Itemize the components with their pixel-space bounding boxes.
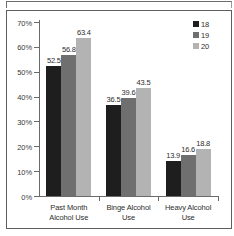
- y-tick-label: 60%: [17, 43, 32, 52]
- bar-group: 52.556.863.4: [46, 22, 91, 196]
- bar[interactable]: 36.5: [106, 105, 121, 196]
- category-label-line: Use: [99, 213, 159, 223]
- y-tick-label: 50%: [17, 68, 32, 77]
- y-tick-mark: [34, 97, 39, 98]
- legend-swatch-icon: [193, 21, 199, 27]
- bar-value-label: 43.5: [137, 78, 151, 87]
- bar[interactable]: 43.5: [136, 88, 151, 196]
- category-label-line: Binge Alcohol: [99, 203, 159, 213]
- bar-value-label: 18.8: [196, 139, 210, 148]
- category-label-line: Heavy Alcohol: [158, 203, 218, 213]
- y-tick: 60%: [34, 47, 39, 48]
- y-tick-mark: [34, 146, 39, 147]
- bar-value-label: 16.6: [181, 145, 195, 154]
- bar-value-label: 36.5: [107, 95, 121, 104]
- y-tick: 10%: [34, 171, 39, 172]
- legend-item[interactable]: 20: [193, 41, 209, 51]
- category-label-line: Past Month: [39, 203, 99, 213]
- chart-page: 0%10%20%30%40%50%60%70% 52.556.863.436.5…: [0, 0, 234, 236]
- y-tick: 30%: [34, 121, 39, 122]
- bar-value-label: 63.4: [77, 28, 91, 37]
- y-tick: 40%: [34, 97, 39, 98]
- category-label: Heavy AlcoholUse: [158, 203, 218, 222]
- y-tick: 50%: [34, 72, 39, 73]
- y-tick-mark: [34, 171, 39, 172]
- category-label: Binge AlcoholUse: [99, 203, 159, 222]
- top-band: [6, 1, 232, 8]
- y-axis-line: [39, 20, 40, 197]
- bar[interactable]: 52.5: [46, 66, 61, 197]
- legend-item[interactable]: 19: [193, 30, 209, 40]
- y-tick-label: 0%: [21, 192, 32, 201]
- y-tick-mark: [34, 47, 39, 48]
- x-axis-line: [39, 196, 219, 197]
- legend-label: 18: [201, 20, 209, 29]
- legend-swatch-icon: [193, 32, 199, 38]
- y-tick: 0%: [34, 196, 39, 197]
- y-tick: 70%: [34, 22, 39, 23]
- y-tick-mark: [34, 22, 39, 23]
- bar-group: 36.539.643.5: [106, 22, 151, 196]
- bar-value-label: 56.8: [62, 45, 76, 54]
- legend-label: 20: [201, 42, 209, 51]
- y-tick-label: 10%: [17, 167, 32, 176]
- category-label: Past MonthAlcohol Use: [39, 203, 99, 222]
- y-tick-label: 70%: [17, 18, 32, 27]
- bar[interactable]: 16.6: [181, 155, 196, 196]
- legend-item[interactable]: 18: [193, 19, 209, 29]
- legend: 181920: [193, 19, 209, 52]
- y-tick-mark: [34, 121, 39, 122]
- y-tick-label: 20%: [17, 142, 32, 151]
- y-tick: 20%: [34, 146, 39, 147]
- legend-swatch-icon: [193, 43, 199, 49]
- legend-label: 19: [201, 31, 209, 40]
- y-tick-label: 40%: [17, 93, 32, 102]
- x-tick-mark: [158, 196, 159, 201]
- category-label-line: Alcohol Use: [39, 213, 99, 223]
- bar[interactable]: 39.6: [121, 98, 136, 196]
- bar[interactable]: 13.9: [166, 161, 181, 196]
- bar-value-label: 13.9: [166, 151, 180, 160]
- y-tick-mark: [34, 72, 39, 73]
- bar[interactable]: 63.4: [76, 38, 91, 196]
- y-tick-label: 30%: [17, 117, 32, 126]
- y-tick-mark: [34, 196, 39, 197]
- x-tick-mark: [99, 196, 100, 201]
- bar-value-label: 39.6: [122, 88, 136, 97]
- bar[interactable]: 56.8: [61, 55, 76, 196]
- bar[interactable]: 18.8: [196, 149, 211, 196]
- category-label-line: Use: [158, 213, 218, 223]
- x-tick-mark: [218, 196, 219, 201]
- bar-value-label: 52.5: [47, 56, 61, 65]
